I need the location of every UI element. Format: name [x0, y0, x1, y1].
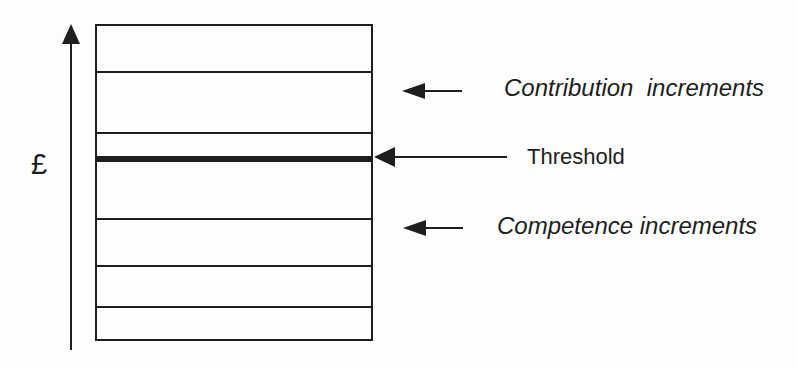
band-divider-line: [97, 71, 371, 73]
up-arrow-icon: [62, 24, 80, 44]
y-axis-line: [70, 40, 72, 350]
pay-band-ladder: [95, 24, 373, 341]
band-divider-line: [97, 218, 371, 220]
contribution-arrow-icon: [402, 83, 425, 99]
competence-increments-label: Competence increments: [497, 212, 757, 240]
competence-arrow-line: [424, 227, 463, 229]
threshold-arrow-icon: [374, 147, 395, 167]
pay-structure-diagram: £ Contribution increments Threshold Comp…: [0, 0, 797, 369]
band-divider-line: [97, 132, 371, 134]
contribution-arrow-line: [423, 90, 462, 92]
threshold-arrow-line: [393, 156, 507, 158]
band-divider-line: [97, 306, 371, 308]
threshold-label: Threshold: [527, 144, 625, 169]
contribution-increments-label: Contribution increments: [504, 74, 764, 102]
band-divider-line: [97, 265, 371, 267]
competence-arrow-icon: [403, 220, 426, 236]
currency-axis-label: £: [31, 150, 47, 179]
threshold-line: [97, 156, 371, 162]
